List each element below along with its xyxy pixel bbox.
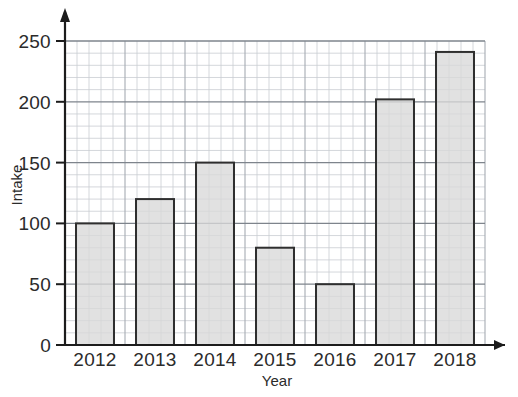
bar xyxy=(256,248,294,345)
y-axis-ticks: 050100150200250 xyxy=(18,31,65,356)
x-tick-label: 2014 xyxy=(193,349,237,370)
x-tick-label: 2018 xyxy=(433,349,476,370)
bar xyxy=(136,199,174,345)
x-tick-label: 2013 xyxy=(133,349,176,370)
bar-chart: 050100150200250 201220132014201520162017… xyxy=(0,0,518,397)
x-tick-label: 2016 xyxy=(313,349,356,370)
y-axis-arrow-icon xyxy=(60,8,70,22)
bar xyxy=(316,284,354,345)
x-axis-title: Year xyxy=(262,372,292,389)
y-tick-label: 200 xyxy=(18,92,51,113)
x-axis-arrow-icon xyxy=(494,340,505,350)
bar-series xyxy=(76,52,474,345)
bar xyxy=(376,99,414,345)
bar xyxy=(436,52,474,345)
y-tick-label: 100 xyxy=(18,213,51,234)
chart-canvas: 050100150200250 201220132014201520162017… xyxy=(0,0,518,397)
x-tick-label: 2015 xyxy=(253,349,296,370)
x-axis-ticks: 2012201320142015201620172018 xyxy=(73,349,476,370)
y-tick-label: 50 xyxy=(29,274,51,295)
x-tick-label: 2012 xyxy=(73,349,116,370)
y-axis-title: Intake xyxy=(8,165,25,206)
bar xyxy=(76,223,114,345)
y-tick-label: 250 xyxy=(18,31,51,52)
y-tick-label: 0 xyxy=(40,335,51,356)
x-tick-label: 2017 xyxy=(373,349,416,370)
bar xyxy=(196,163,234,345)
